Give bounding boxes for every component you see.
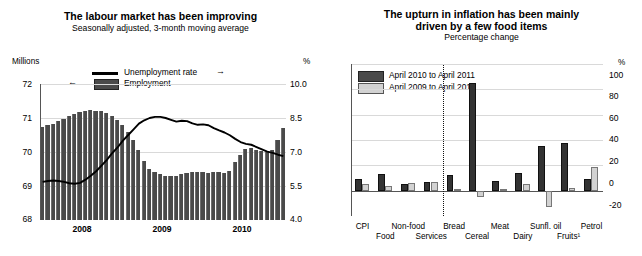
unemployment-line-swatch: [92, 72, 118, 75]
inflation-bar: [355, 179, 362, 190]
unemployment-rate-line: [40, 84, 286, 220]
left-chart-subtitle: Seasonally adjusted, 3-month moving aver…: [0, 23, 321, 33]
left-xtick-2010: 2010: [212, 224, 272, 234]
inflation-bar: [584, 179, 591, 190]
left-y2tick-70: 7.0: [290, 147, 320, 157]
inflation-bar: [408, 183, 415, 191]
right-ytick-100: 100: [609, 70, 639, 80]
inflation-bar: [500, 189, 507, 191]
right-ytick-0: 0: [609, 178, 639, 188]
left-ytick-69: 69: [6, 181, 32, 191]
left-y2tick-55: 5.5: [290, 181, 320, 191]
inflation-bar: [401, 184, 408, 190]
inflation-bar: [492, 181, 499, 191]
right-chart-title-line2: driven by a few food items: [321, 20, 642, 32]
right-chart-subtitle: Percentage change: [321, 32, 642, 42]
inflation-bar: [569, 188, 576, 191]
labour-market-chart: The labour market has been improving Sea…: [0, 0, 321, 256]
inflation-bar: [477, 191, 484, 197]
right-ytick-40: 40: [609, 134, 639, 144]
right-gridline: [351, 115, 603, 116]
left-ytick-68: 68: [6, 214, 32, 224]
left-y-axis-unit: Millions: [12, 57, 39, 66]
left-y2tick-40: 4.0: [290, 214, 320, 224]
right-plot-area: [351, 64, 603, 216]
figure-container: The labour market has been improving Sea…: [0, 0, 642, 256]
inflation-bar: [538, 146, 545, 190]
left-xtick-2008: 2008: [52, 224, 112, 234]
inflation-bar: [431, 182, 438, 191]
inflation-bar: [515, 173, 522, 191]
left-xtick-2009: 2009: [132, 224, 192, 234]
inflation-bar: [385, 186, 392, 191]
right-gridline: [351, 140, 603, 141]
inflation-bar: [362, 184, 369, 190]
right-chart-title-line1: The upturn in inflation has been mainly: [321, 8, 642, 20]
right-ytick-60: 60: [609, 113, 639, 123]
right-ytick-20: 20: [609, 156, 639, 166]
category-label-petrol: Petrol: [562, 222, 622, 231]
right-gridline: [351, 89, 603, 90]
inflation-bar: [591, 167, 598, 191]
left-chart-title: The labour market has been improving: [0, 10, 321, 22]
inflation-bar: [378, 174, 385, 190]
inflation-bar: [454, 189, 461, 191]
inflation-bar: [469, 83, 476, 191]
left-y-axis: [40, 84, 41, 220]
inflation-bar: [523, 184, 530, 190]
right-arrow-icon: →: [216, 66, 225, 76]
inflation-bar: [424, 182, 431, 191]
inflation-bar: [561, 143, 568, 191]
left-ytick-71: 71: [6, 113, 32, 123]
left-y2-axis-unit: %: [303, 57, 310, 66]
right-y-axis-unit: %: [618, 58, 625, 67]
right-ytick-neg20: -20: [609, 200, 639, 210]
inflation-bar: [546, 191, 553, 207]
left-ytick-70: 70: [6, 147, 32, 157]
left-y2tick-10: 10.0: [290, 79, 320, 89]
legend-label-unemployment: Unemployment rate: [124, 67, 197, 77]
inflation-chart: The upturn in inflation has been mainly …: [321, 0, 642, 256]
inflation-bar: [447, 175, 454, 190]
category-label-fruits: Fruits¹: [539, 232, 599, 241]
right-gridline: [351, 64, 603, 65]
food-nonfood-separator: [443, 64, 444, 216]
right-y-axis: [351, 64, 352, 216]
right-ytick-80: 80: [609, 91, 639, 101]
left-y2tick-85: 8.5: [290, 113, 320, 123]
left-plot-area: [40, 84, 286, 220]
left-ytick-72: 72: [6, 79, 32, 89]
